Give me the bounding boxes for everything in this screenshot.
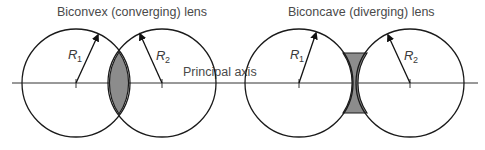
svg-text:1: 1 bbox=[299, 54, 304, 64]
svg-text:2: 2 bbox=[413, 55, 418, 65]
svg-text:2: 2 bbox=[165, 55, 170, 65]
label-r2-convex: R 2 bbox=[156, 48, 170, 65]
svg-text:R: R bbox=[404, 48, 413, 63]
svg-text:R: R bbox=[290, 47, 299, 62]
svg-text:R: R bbox=[156, 48, 165, 63]
lens-diagram: Biconvex (converging) lens Biconcave (di… bbox=[0, 0, 485, 150]
label-r2-concave: R 2 bbox=[404, 48, 418, 65]
svg-text:R: R bbox=[68, 47, 77, 62]
svg-text:1: 1 bbox=[77, 54, 82, 64]
label-r1-convex: R 1 bbox=[68, 47, 82, 64]
label-r1-concave: R 1 bbox=[290, 47, 304, 64]
biconcave-title: Biconcave (diverging) lens bbox=[288, 5, 435, 19]
biconvex-title: Biconvex (converging) lens bbox=[57, 5, 207, 19]
